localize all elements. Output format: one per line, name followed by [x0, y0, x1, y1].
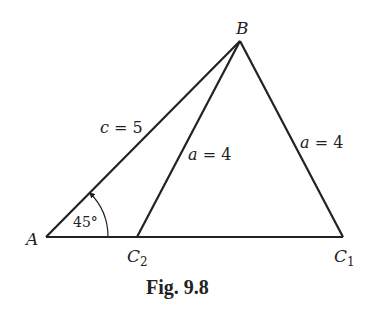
vertex-c1-label: C1 [334, 246, 355, 269]
vertex-b-label: B [235, 18, 249, 38]
side-a-left-label: a = 4 [188, 145, 231, 164]
angle-label: 45° [73, 214, 98, 230]
figure-caption: Fig. 9.8 [146, 276, 209, 299]
vertex-a-label: A [24, 229, 38, 249]
vertex-c2-label: C2 [127, 246, 148, 269]
side-a-c2-line [137, 41, 240, 237]
side-c-label: c = 5 [100, 118, 143, 137]
triangle-diagram: A B C2 C1 c = 5 a = 4 a = 4 45° Fig. 9.8 [0, 0, 373, 316]
side-c-line [46, 41, 240, 237]
side-a-right-label: a = 4 [300, 133, 343, 152]
vertex-c1-subscript: 1 [347, 255, 355, 269]
vertex-c2-subscript: 2 [140, 255, 148, 269]
